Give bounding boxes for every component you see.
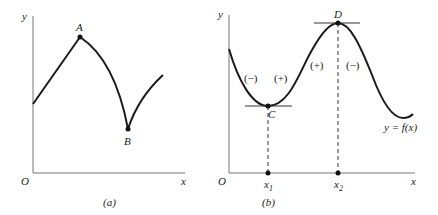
x-axis-label-b: x xyxy=(410,175,416,187)
caption-a: (a) xyxy=(103,196,116,209)
point-b-label: B xyxy=(124,135,131,147)
y-axis-label-b: y xyxy=(217,8,223,20)
panel-a: y A B O x (a) xyxy=(21,10,186,209)
point-d-label: D xyxy=(333,8,342,20)
x2-label: x2 xyxy=(333,178,343,193)
point-b-marker xyxy=(126,127,131,132)
origin-label-b: O xyxy=(218,175,226,187)
curve-a xyxy=(33,37,163,129)
diagram-canvas: y A B O x (a) y D C (−) (+) (+) (−) y = … xyxy=(0,0,438,215)
point-d-marker xyxy=(336,21,341,26)
x1-label: x1 xyxy=(263,178,273,193)
sign-1: (−) xyxy=(244,72,258,85)
origin-label-a: O xyxy=(21,175,29,187)
point-a-label: A xyxy=(75,21,83,33)
x-axis-label-a: x xyxy=(180,175,186,187)
point-a-marker xyxy=(78,35,83,40)
sign-4: (−) xyxy=(346,59,360,72)
panel-b: y D C (−) (+) (+) (−) y = f(x) O x x1 x2… xyxy=(217,8,417,209)
x1-marker xyxy=(266,171,271,176)
sign-3: (+) xyxy=(310,59,324,72)
sign-2: (+) xyxy=(274,72,288,85)
caption-b: (b) xyxy=(262,196,275,209)
function-label: y = f(x) xyxy=(383,121,417,134)
point-c-label: C xyxy=(268,108,276,120)
y-axis-label-a: y xyxy=(21,10,27,22)
x2-marker xyxy=(336,171,341,176)
